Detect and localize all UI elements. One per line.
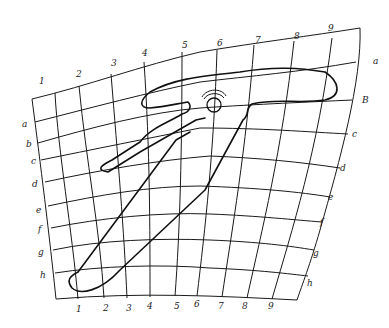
col-line-7: [222, 45, 254, 297]
col-label-bottom-4: 4: [146, 301, 153, 311]
row-line-f: [51, 214, 322, 228]
col-label-top-7: 7: [255, 35, 261, 45]
row-line-g: [53, 239, 314, 250]
col-label-top-5: 5: [182, 40, 188, 50]
column-labels-bottom: 1 2 3 4 5 6 7 8 9: [76, 299, 274, 314]
col-label-top-6: 6: [217, 38, 223, 48]
row-label-left-f: f: [37, 224, 43, 234]
row-labels-right: a B c d e f g h: [307, 56, 378, 288]
row-label-right-f: f: [319, 217, 325, 227]
col-label-bottom-3: 3: [126, 303, 132, 313]
col-label-top-3: 3: [111, 58, 117, 68]
traced-outline-upper: [69, 68, 337, 291]
row-line-e: [48, 186, 330, 206]
grid-diagram: 1 2 3 4 5 6 7 8 9 1 2 3 4 5 6 7 8 9 a b …: [0, 0, 389, 328]
row-label-left-h: h: [40, 270, 46, 280]
col-line-1: [55, 93, 78, 299]
row-label-left-e: e: [36, 205, 41, 215]
row-label-right-a: a: [373, 56, 378, 66]
row-label-left-b: b: [26, 139, 32, 149]
col-line-5: [175, 52, 182, 296]
col-label-bottom-8: 8: [242, 301, 248, 311]
col-label-bottom-6: 6: [194, 299, 200, 309]
col-line-9: [272, 38, 332, 299]
row-label-right-d: d: [340, 163, 346, 173]
diagram-canvas: 1 2 3 4 5 6 7 8 9 1 2 3 4 5 6 7 8 9 a b …: [0, 0, 389, 328]
col-label-bottom-9: 9: [268, 301, 274, 311]
col-label-bottom-7: 7: [218, 301, 224, 311]
row-label-right-e: e: [328, 192, 333, 202]
col-label-top-9: 9: [328, 23, 334, 33]
row-line-a: [35, 62, 356, 122]
col-line-8: [247, 41, 294, 298]
row-label-left-c: c: [31, 156, 36, 166]
row-label-left-d: d: [32, 179, 38, 189]
col-line-3: [111, 74, 127, 298]
row-labels-left: a b c d e f g h: [22, 119, 46, 280]
col-label-bottom-1: 1: [76, 304, 82, 314]
col-label-top-8: 8: [294, 31, 300, 41]
row-label-right-h: h: [307, 278, 313, 288]
row-label-left-a: a: [22, 119, 27, 129]
col-label-bottom-5: 5: [174, 301, 180, 311]
col-label-top-2: 2: [75, 69, 82, 79]
row-label-right-g: g: [313, 248, 319, 258]
row-line-h: [55, 266, 308, 276]
col-label-top-1: 1: [39, 76, 45, 86]
row-label-right-c: c: [352, 129, 357, 139]
row-label-right-b: B: [361, 95, 369, 105]
col-label-top-4: 4: [141, 48, 148, 58]
row-label-left-g: g: [38, 247, 44, 257]
col-label-bottom-2: 2: [102, 303, 109, 313]
